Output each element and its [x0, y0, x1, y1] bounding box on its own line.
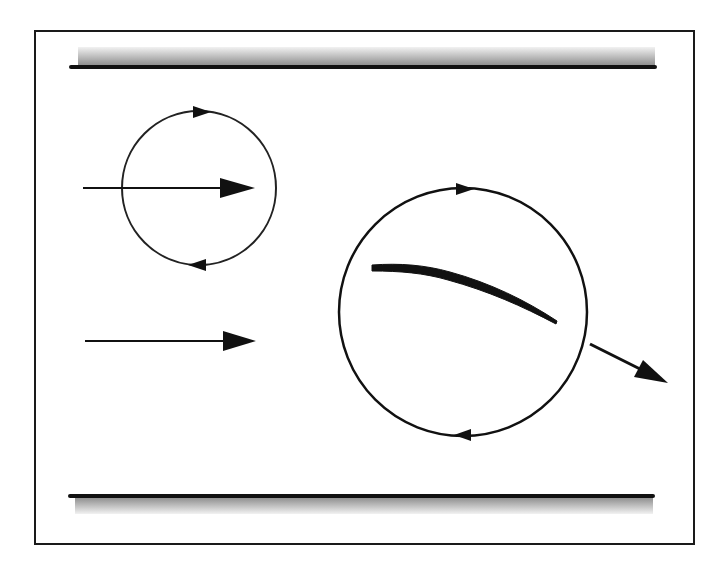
diagram-frame	[35, 31, 694, 544]
bottom-wall-shading	[75, 497, 653, 514]
top-wall	[71, 47, 655, 67]
flow-diagram	[0, 0, 726, 571]
bottom-wall	[70, 496, 653, 514]
top-wall-shading	[78, 47, 655, 66]
